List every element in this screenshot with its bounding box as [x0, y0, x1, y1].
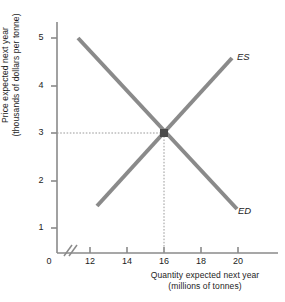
- axis-break-icon: [64, 245, 77, 256]
- y-axis-title-line2: (thousands of dollars per tonne): [11, 0, 22, 150]
- x-tick-label-20: 20: [230, 256, 246, 266]
- y-tick-label-3: 3: [33, 127, 49, 137]
- y-tick-label-4: 4: [33, 80, 49, 90]
- x-axis-title-line2: (millions of tonnes): [126, 281, 284, 292]
- series-line-ED: [78, 38, 237, 209]
- x-tick-label-18: 18: [193, 256, 209, 266]
- y-axis-title: Price expected next year (thousands of d…: [0, 0, 21, 150]
- series-label-ED: ED: [238, 205, 251, 216]
- series-label-ES: ES: [237, 51, 250, 62]
- chart-container: Price expected next year (thousands of d…: [0, 0, 285, 302]
- x-tick-label-12: 12: [82, 256, 98, 266]
- y-tick-label-1: 1: [33, 222, 49, 232]
- x-tick-label-16: 16: [156, 256, 172, 266]
- y-tick-label-5: 5: [33, 32, 49, 42]
- y-axis-title-line1: Price expected next year: [0, 0, 11, 150]
- x-axis-title: Quantity expected next year (millions of…: [126, 270, 284, 291]
- x-axis-title-line1: Quantity expected next year: [126, 270, 284, 281]
- y-axis-ticks: [51, 38, 57, 228]
- x-tick-label-14: 14: [119, 256, 135, 266]
- equilibrium-point-marker: [160, 129, 168, 137]
- y-tick-label-2: 2: [33, 175, 49, 185]
- origin-label: 0: [41, 256, 57, 266]
